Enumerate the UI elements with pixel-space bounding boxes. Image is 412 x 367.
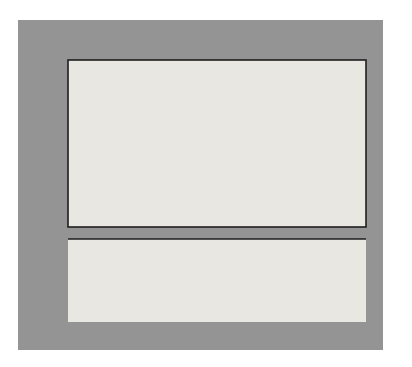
bottom-plot-background [68,239,366,322]
figure-card [18,20,383,350]
charts-svg [18,20,383,350]
top-chart [68,60,366,227]
top-plot-background [68,60,366,227]
bottom-chart [68,239,366,322]
